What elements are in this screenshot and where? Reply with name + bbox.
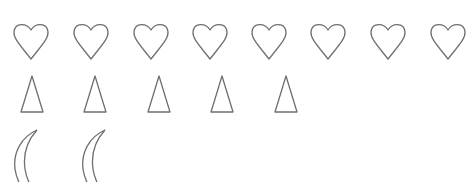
triangle-icon: [83, 75, 107, 113]
heart-icon: [133, 22, 169, 60]
crescent-moon-icon: [81, 129, 107, 182]
heart-icon: [251, 22, 287, 60]
triangle-icon: [274, 75, 298, 113]
heart-icon: [370, 22, 406, 60]
heart-icon: [192, 22, 228, 60]
heart-icon: [73, 22, 109, 60]
heart-icon: [13, 22, 49, 60]
crescent-moon-icon: [13, 129, 39, 182]
heart-icon: [430, 22, 466, 60]
triangle-icon: [147, 75, 171, 113]
triangle-icon: [210, 75, 234, 113]
heart-icon: [310, 22, 346, 60]
triangle-icon: [20, 75, 44, 113]
